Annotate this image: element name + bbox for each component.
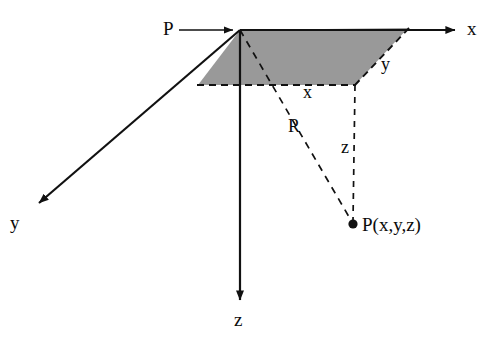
dashed-z-line — [353, 85, 355, 221]
y-axis-label: y — [10, 213, 20, 232]
segment-z-label: z — [341, 138, 349, 156]
z-axis-label: z — [234, 310, 242, 329]
origin-callout-label: P — [163, 19, 174, 38]
segment-y-label: y — [381, 55, 390, 73]
shaded-plane-region — [198, 28, 408, 85]
segment-r-label: R — [288, 117, 300, 135]
segment-x-label: x — [303, 83, 312, 101]
point-marker — [348, 219, 357, 228]
x-axis-label: x — [467, 19, 477, 38]
diagram-canvas — [0, 0, 490, 343]
point-label: P(x,y,z) — [362, 215, 421, 234]
y-axis-line — [39, 30, 240, 203]
